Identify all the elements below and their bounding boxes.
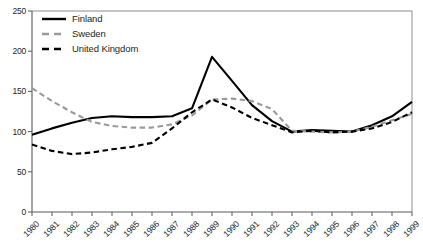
legend-label-sweden: Sweden (72, 29, 106, 39)
y-tick-label: 100 (0, 127, 26, 137)
y-axis-ticks (28, 11, 32, 212)
legend-item-sweden: Sweden (42, 27, 138, 40)
series-line-finland (32, 57, 412, 135)
legend-swatch-united-kingdom (42, 44, 66, 54)
series-line-united-kingdom (32, 99, 412, 154)
chart-legend: Finland Sweden United Kingdom (42, 12, 138, 57)
series-line-sweden (32, 88, 412, 132)
y-tick-label: 0 (0, 207, 26, 217)
legend-swatch-finland (42, 14, 66, 24)
legend-label-united-kingdom: United Kingdom (72, 44, 138, 54)
legend-swatch-sweden (42, 29, 66, 39)
y-tick-label: 250 (0, 6, 26, 16)
y-tick-label: 50 (0, 167, 26, 177)
y-tick-label: 200 (0, 46, 26, 56)
legend-item-united-kingdom: United Kingdom (42, 42, 138, 55)
legend-item-finland: Finland (42, 12, 138, 25)
line-chart: 050100150200250 198019811982198319841985… (0, 0, 423, 251)
data-series-layer (32, 57, 412, 154)
x-axis-ticks (32, 212, 412, 216)
y-tick-label: 150 (0, 86, 26, 96)
legend-label-finland: Finland (72, 14, 102, 24)
